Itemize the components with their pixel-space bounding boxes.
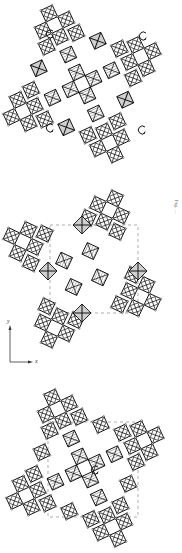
- rotation-arrow-icon: [138, 126, 145, 135]
- axes-indicator: y x: [4, 318, 44, 368]
- octahedra-diagram: [0, 370, 165, 550]
- structure-panel-bottom: [0, 370, 165, 550]
- rotation-arrow-icon: [139, 32, 146, 41]
- rotation-arrow-icon: [46, 124, 53, 133]
- octahedra-diagram: [0, 2, 165, 167]
- x-axis-label: x: [35, 358, 38, 364]
- figure-caption: Fig. ...: [171, 200, 181, 550]
- y-axis-label: y: [7, 318, 10, 324]
- structure-panel-top: [0, 2, 165, 167]
